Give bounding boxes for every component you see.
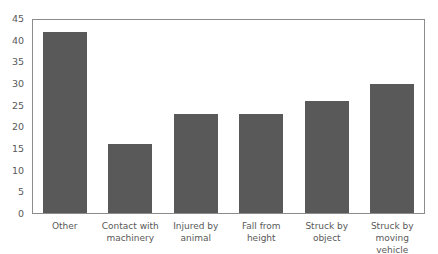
x-tick-label-line: animal bbox=[163, 232, 229, 244]
x-tick-label: Contact withmachinery bbox=[97, 220, 163, 244]
bar bbox=[108, 144, 152, 213]
bar bbox=[43, 32, 87, 213]
bar bbox=[370, 84, 414, 213]
y-tick-label: 45 bbox=[0, 14, 24, 24]
x-tick-label: Other bbox=[32, 220, 98, 232]
y-tick-label: 0 bbox=[0, 209, 24, 219]
x-tick-label-line: Other bbox=[32, 220, 98, 232]
plot-area bbox=[32, 19, 425, 214]
x-tick-label: Fall from height bbox=[228, 220, 294, 244]
y-tick-label: 20 bbox=[0, 122, 24, 132]
x-tick-label-line: Struck by bbox=[294, 220, 360, 232]
x-tick-label-line: Contact with bbox=[97, 220, 163, 232]
x-tick-label-line: Injured by bbox=[163, 220, 229, 232]
y-tick-label: 40 bbox=[0, 36, 24, 46]
bar bbox=[174, 114, 218, 213]
y-tick-label: 35 bbox=[0, 57, 24, 67]
bar bbox=[239, 114, 283, 213]
x-tick-label-line: Struck by bbox=[359, 220, 425, 232]
y-tick-label: 30 bbox=[0, 79, 24, 89]
x-tick-label-line: object bbox=[294, 232, 360, 244]
x-tick-label-line: machinery bbox=[97, 232, 163, 244]
x-tick-label-line: moving vehicle bbox=[359, 232, 425, 254]
y-tick-label: 5 bbox=[0, 187, 24, 197]
x-tick-label-line: Fall from height bbox=[228, 220, 294, 244]
x-tick-label: Injured byanimal bbox=[163, 220, 229, 244]
x-tick-label: Struck bymoving vehicle bbox=[359, 220, 425, 254]
x-tick-label: Struck byobject bbox=[294, 220, 360, 244]
y-tick-label: 15 bbox=[0, 144, 24, 154]
y-tick-label: 25 bbox=[0, 101, 24, 111]
y-tick-label: 10 bbox=[0, 166, 24, 176]
bar bbox=[305, 101, 349, 213]
